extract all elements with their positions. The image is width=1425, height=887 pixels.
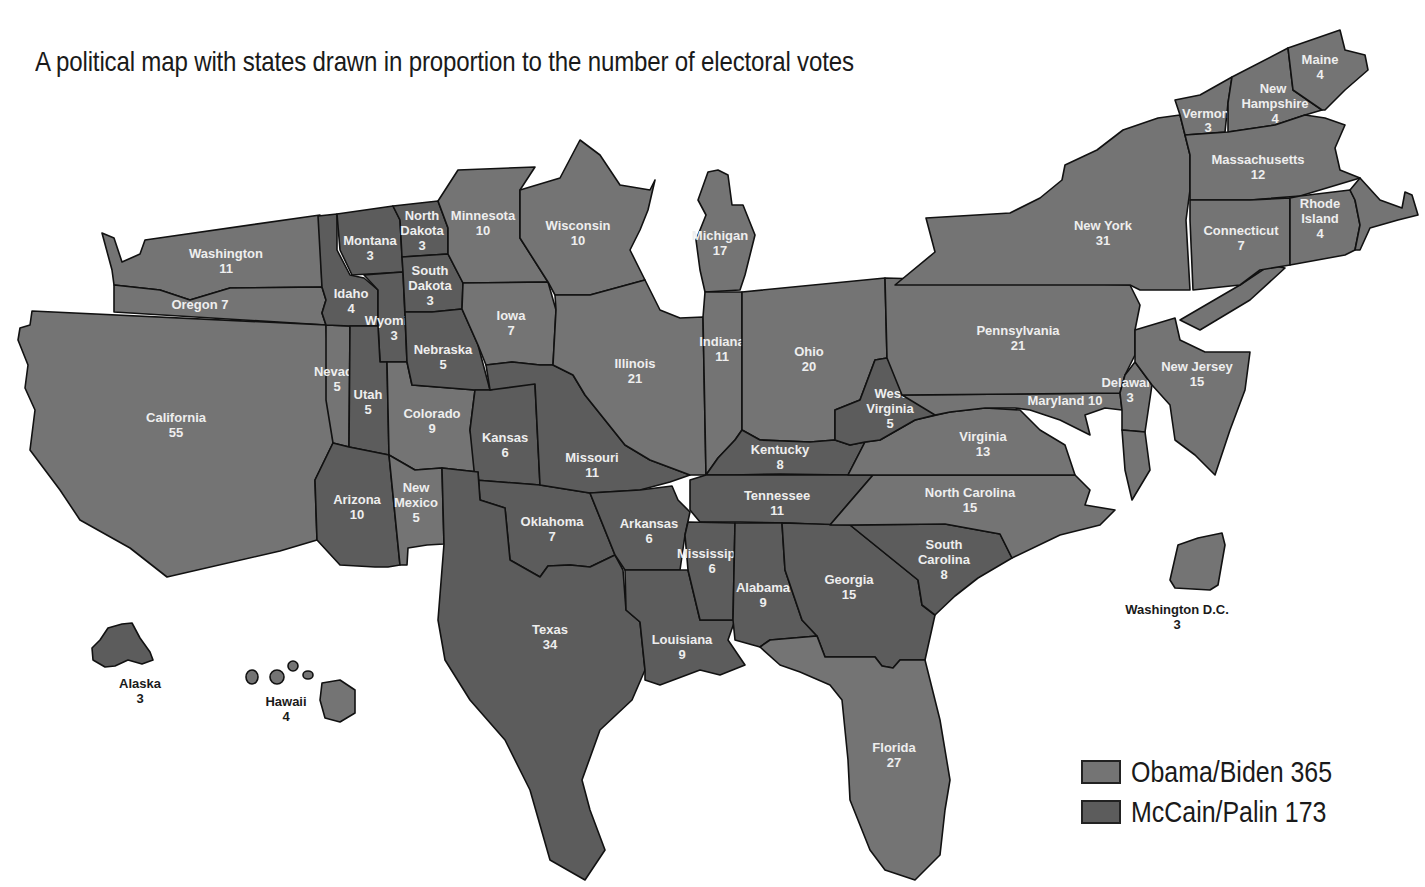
state-label: New (403, 480, 431, 495)
state-dc[interactable]: Washington D.C. 3 (1125, 533, 1229, 632)
state-votes: 10 (350, 507, 364, 522)
state-votes: 3 (390, 328, 397, 343)
state-label: Hampshire (1241, 96, 1308, 111)
state-label: Kansas (482, 430, 528, 445)
state-california[interactable]: California 55 (18, 311, 333, 577)
state-label: Florida (872, 740, 916, 755)
state-montana[interactable]: Montana 3 (337, 206, 403, 275)
state-label: North Carolina (925, 485, 1016, 500)
state-label: Georgia (824, 572, 874, 587)
state-votes: 55 (169, 425, 183, 440)
legend-label: McCain/Palin 173 (1131, 796, 1326, 829)
state-label: California (146, 410, 207, 425)
legend-item-mccain: McCain/Palin 173 (1081, 792, 1365, 832)
state-arizona[interactable]: Arizona 10 (315, 443, 400, 567)
state-label: Minnesota (451, 208, 516, 223)
state-votes: 3 (366, 248, 373, 263)
state-label: Texas (532, 622, 568, 637)
state-vermont[interactable]: Vermont 3 (1175, 77, 1235, 135)
state-votes: 3 (418, 238, 425, 253)
state-label: Carolina (918, 552, 971, 567)
state-votes: 3 (136, 691, 143, 706)
mccain-swatch (1081, 800, 1121, 824)
state-label: Maryland 10 (1027, 393, 1102, 408)
state-label: Michigan (692, 228, 748, 243)
state-label: Tennessee (744, 488, 810, 503)
legend-item-obama: Obama/Biden 365 (1081, 752, 1365, 792)
state-label: Louisiana (652, 632, 713, 647)
state-label: Mexico (394, 495, 438, 510)
state-votes: 6 (645, 531, 652, 546)
state-votes: 6 (708, 561, 715, 576)
state-label: Rhode (1300, 196, 1340, 211)
state-label: Iowa (497, 308, 527, 323)
state-label: Alaska (119, 676, 162, 691)
state-label: Ohio (794, 344, 824, 359)
state-votes: 15 (963, 500, 977, 515)
state-label: Arkansas (620, 516, 679, 531)
state-delaware-peninsula (1122, 430, 1150, 500)
state-label: South (412, 263, 449, 278)
state-label: New Jersey (1161, 359, 1233, 374)
state-new-york[interactable]: New York 31 (895, 115, 1190, 290)
state-votes: 5 (364, 402, 371, 417)
state-votes: 7 (548, 529, 555, 544)
state-label: Dakota (400, 223, 444, 238)
state-label: Island (1301, 211, 1339, 226)
state-label: Vermont (1182, 106, 1235, 121)
state-votes: 21 (1011, 338, 1025, 353)
state-hawaii[interactable]: Hawaii 4 (246, 661, 355, 724)
state-label: Alabama (736, 580, 791, 595)
state-alaska[interactable]: Alaska 3 (92, 623, 162, 706)
state-label: Pennsylvania (976, 323, 1060, 338)
obama-swatch (1081, 760, 1121, 784)
state-votes: 5 (886, 416, 893, 431)
state-votes: 20 (802, 359, 816, 374)
state-votes: 3 (1126, 390, 1133, 405)
state-votes: 11 (219, 261, 233, 276)
state-votes: 7 (1237, 238, 1244, 253)
state-votes: 6 (501, 445, 508, 460)
state-votes: 4 (347, 301, 355, 316)
state-label: Washington D.C. (1125, 602, 1229, 617)
state-label: Kentucky (751, 442, 810, 457)
state-votes: 4 (282, 709, 290, 724)
state-cape-cod (1350, 178, 1418, 250)
state-votes: 11 (585, 465, 599, 480)
state-label: Maine (1302, 52, 1339, 67)
state-votes: 5 (439, 357, 446, 372)
state-michigan[interactable]: Michigan 17 (692, 170, 755, 292)
state-votes: 27 (887, 755, 901, 770)
state-label: Wisconsin (546, 218, 611, 233)
state-votes: 5 (412, 510, 419, 525)
state-votes: 4 (1316, 226, 1324, 241)
state-votes: 12 (1251, 167, 1265, 182)
state-votes: 10 (571, 233, 585, 248)
state-votes: 9 (428, 421, 435, 436)
state-florida[interactable]: Florida 27 (760, 636, 950, 880)
state-votes: 5 (333, 379, 340, 394)
legend: Obama/Biden 365 McCain/Palin 173 (1081, 752, 1365, 832)
state-label: Massachusetts (1211, 152, 1304, 167)
state-label: North (405, 208, 440, 223)
state-label: Illinois (614, 356, 655, 371)
state-votes: 17 (713, 243, 727, 258)
state-votes: 34 (543, 637, 558, 652)
state-votes: 13 (976, 444, 990, 459)
legend-label: Obama/Biden 365 (1131, 756, 1332, 789)
state-kansas[interactable]: Kansas 6 (470, 384, 540, 485)
state-votes: 11 (715, 349, 729, 364)
state-votes: 11 (770, 503, 784, 518)
state-rhode-island[interactable]: Rhode Island 4 (1290, 190, 1360, 265)
state-label: Washington (189, 246, 263, 261)
state-label: Montana (343, 233, 397, 248)
state-label: Missouri (565, 450, 618, 465)
state-votes: 8 (940, 567, 947, 582)
state-new-jersey[interactable]: New Jersey 15 (1135, 318, 1250, 475)
state-votes: 4 (1316, 67, 1324, 82)
state-label: Virginia (866, 401, 914, 416)
state-label: Arizona (333, 492, 381, 507)
state-label: Dakota (408, 278, 452, 293)
state-votes: 8 (776, 457, 783, 472)
state-north-dakota[interactable]: North Dakota 3 (393, 201, 448, 257)
